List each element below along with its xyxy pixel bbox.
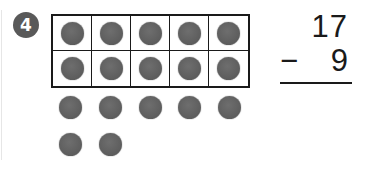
ten-frame-cell: [170, 51, 209, 86]
loose-counter-icon: [59, 96, 82, 119]
ten-frame-cell: [209, 16, 248, 51]
minus-sign: −: [280, 44, 298, 78]
counter-icon: [61, 57, 84, 80]
ten-frame-cell: [53, 16, 92, 51]
loose-counter-icon: [59, 133, 82, 156]
ten-frame: [51, 14, 250, 88]
answer-line: [280, 82, 352, 84]
problem-number-badge: 4: [13, 12, 39, 38]
loose-counter-icon: [218, 96, 241, 119]
ten-frame-cell: [92, 51, 131, 86]
ten-frame-cell: [131, 51, 170, 86]
ten-frame-cell: [131, 16, 170, 51]
loose-counter-icon: [99, 133, 122, 156]
page-margin-rule: [1, 10, 2, 160]
ten-frame-cell: [209, 51, 248, 86]
loose-counter-icon: [139, 96, 162, 119]
counter-icon: [139, 57, 162, 80]
ten-frame-cell: [53, 51, 92, 86]
counter-icon: [178, 22, 201, 45]
loose-counter-icon: [99, 96, 122, 119]
minuend: 17: [312, 10, 348, 44]
subtrahend: 9: [331, 44, 348, 78]
counter-icon: [100, 57, 123, 80]
counter-icon: [217, 22, 240, 45]
counter-icon: [178, 57, 201, 80]
loose-counter-icon: [178, 96, 201, 119]
counter-icon: [100, 22, 123, 45]
ten-frame-cell: [92, 16, 131, 51]
counter-icon: [61, 22, 84, 45]
counter-icon: [217, 57, 240, 80]
counter-icon: [139, 22, 162, 45]
ten-frame-cell: [170, 16, 209, 51]
